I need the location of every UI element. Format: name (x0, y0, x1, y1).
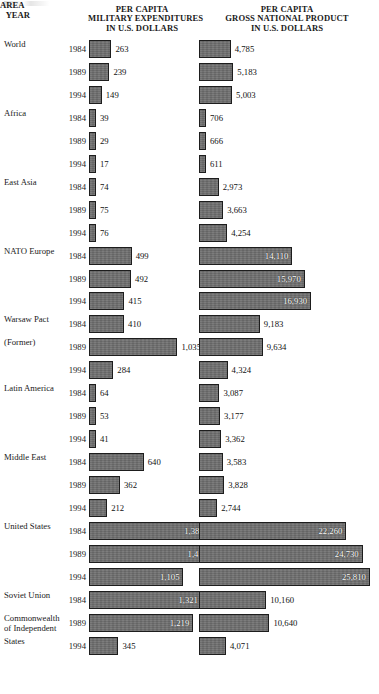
gnp-value: 9,634 (267, 338, 287, 356)
gnp-bar (199, 40, 231, 58)
gnp-bar (199, 201, 223, 219)
year-label: 1984 (46, 109, 86, 127)
military-bar-wrap: 415 (89, 292, 124, 310)
gnp-bar-wrap: 22,260 (199, 522, 346, 540)
military-value: 1,105 (160, 568, 180, 586)
military-value: 410 (128, 315, 141, 333)
gnp-value: 15,970 (277, 270, 301, 288)
military-bar-wrap: 29 (89, 132, 96, 150)
gnp-bar-wrap: 666 (199, 132, 206, 150)
military-bar (89, 178, 96, 196)
gnp-bar (199, 430, 221, 448)
military-bar-wrap: 53 (89, 407, 96, 425)
military-bar-wrap: 75 (89, 201, 96, 219)
gnp-value: 4,254 (231, 224, 251, 242)
military-bar-wrap: 1,321 (89, 591, 202, 609)
gnp-bar-wrap: 10,160 (199, 591, 266, 609)
military-value: 76 (100, 224, 109, 242)
gnp-bar-wrap: 9,634 (199, 338, 263, 356)
column-header-area: AREA (0, 0, 60, 10)
gnp-bar-wrap: 25,810 (199, 568, 370, 586)
gnp-value: 3,828 (228, 476, 248, 494)
gnp-bar (199, 476, 224, 494)
year-label: 1984 (46, 591, 86, 609)
gnp-bar-wrap: 3,663 (199, 201, 223, 219)
year-label: 1994 (46, 86, 86, 104)
military-bar-wrap: 1,428 (89, 545, 211, 563)
year-label: 1989 (46, 545, 86, 563)
military-bar (89, 476, 120, 494)
year-label: 1984 (46, 384, 86, 402)
military-bar-wrap: 1,388 (89, 522, 208, 540)
military-bar (89, 338, 177, 356)
military-bar (89, 132, 96, 150)
military-bar (89, 86, 102, 104)
gnp-value: 4,071 (230, 637, 250, 655)
gnp-value: 611 (210, 155, 223, 173)
gnp-bar-wrap: 3,828 (199, 476, 224, 494)
military-bar-wrap: 239 (89, 63, 109, 81)
gnp-bar (199, 155, 206, 173)
gnp-value: 4,785 (235, 40, 255, 58)
gnp-value: 5,003 (236, 86, 256, 104)
gnp-value: 3,362 (225, 430, 245, 448)
gnp-value: 3,087 (223, 384, 243, 402)
gnp-value: 10,160 (270, 591, 294, 609)
military-value: 415 (128, 292, 141, 310)
gnp-bar-wrap: 4,071 (199, 637, 226, 655)
gnp-value: 3,663 (227, 201, 247, 219)
military-bar-wrap: 640 (89, 453, 144, 471)
military-bar (89, 384, 96, 402)
gnp-bar-wrap: 2,744 (199, 499, 217, 517)
military-value: 284 (117, 361, 130, 379)
gnp-bar-wrap: 2,973 (199, 178, 219, 196)
gnp-value: 14,110 (265, 247, 289, 265)
year-label: 1989 (46, 63, 86, 81)
column-header-military-expenditures: PER CAPITA MILITARY EXPENDITURES IN U.S.… (88, 5, 196, 33)
military-head-line-3: IN U.S. DOLLARS (88, 24, 196, 33)
gnp-bar (199, 63, 233, 81)
year-label: 1989 (46, 201, 86, 219)
gnp-bar (199, 224, 227, 242)
year-label: 1989 (46, 614, 86, 632)
gnp-bar-wrap: 611 (199, 155, 206, 173)
military-bar-wrap: 263 (89, 40, 111, 58)
gnp-value: 5,183 (237, 63, 257, 81)
column-header-year: YEAR (0, 10, 30, 20)
gnp-bar-wrap: 3,177 (199, 407, 220, 425)
per-capita-military-gnp-chart: AREA YEAR PER CAPITA MILITARY EXPENDITUR… (0, 0, 379, 694)
gnp-bar-wrap: 9,183 (199, 315, 260, 333)
year-label: 1994 (46, 292, 86, 310)
gnp-bar-wrap: 16,930 (199, 292, 311, 310)
year-label: 1994 (46, 637, 86, 655)
military-value: 74 (100, 178, 109, 196)
gnp-value: 2,973 (223, 178, 243, 196)
gnp-bar (199, 407, 220, 425)
military-value: 17 (100, 155, 109, 173)
military-bar (89, 499, 107, 517)
gnp-bar (199, 637, 226, 655)
military-bar (89, 453, 144, 471)
military-bar-wrap: 39 (89, 109, 96, 127)
gnp-bar-wrap: 3,583 (199, 453, 223, 471)
gnp-bar (199, 384, 219, 402)
military-value: 29 (100, 132, 109, 150)
year-label: 1994 (46, 499, 86, 517)
gnp-bar-wrap: 15,970 (199, 270, 305, 288)
year-label: 1989 (46, 476, 86, 494)
military-value: 39 (100, 109, 109, 127)
military-bar-wrap: 76 (89, 224, 96, 242)
column-header-gross-national-product: PER CAPITA GROSS NATIONAL PRODUCT IN U.S… (198, 5, 376, 33)
military-bar-wrap: 362 (89, 476, 120, 494)
gnp-value: 666 (210, 132, 223, 150)
table-row: States19943454,071 (0, 637, 379, 667)
military-bar-wrap: 492 (89, 270, 131, 288)
military-bar (89, 292, 124, 310)
year-label: 1994 (46, 155, 86, 173)
military-bar (89, 63, 109, 81)
military-bar (89, 637, 118, 655)
year-label: 1984 (46, 40, 86, 58)
gnp-bar-wrap: 5,183 (199, 63, 233, 81)
gnp-bar-wrap: 14,110 (199, 247, 292, 265)
military-value: 362 (124, 476, 137, 494)
